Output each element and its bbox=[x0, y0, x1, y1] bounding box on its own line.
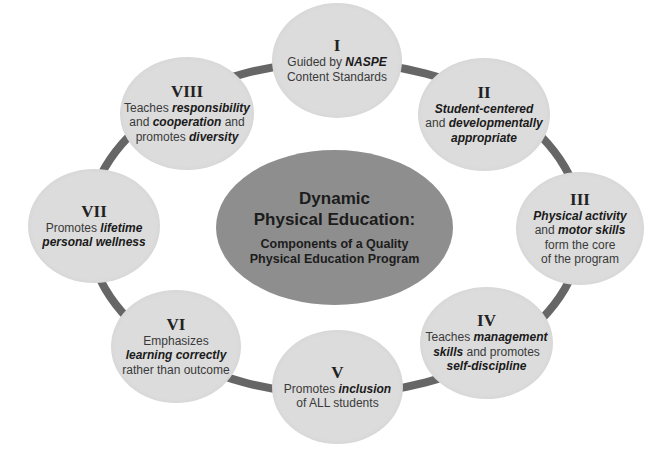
node-text-line: Emphasizes bbox=[143, 334, 208, 349]
emphasized-text: personal wellness bbox=[42, 235, 145, 249]
roman-numeral: I bbox=[334, 37, 341, 54]
text: promotes bbox=[136, 130, 189, 144]
node-text-line: and motor skills bbox=[535, 223, 626, 238]
text: and bbox=[221, 115, 244, 129]
emphasized-text: management bbox=[474, 330, 548, 344]
roman-numeral: III bbox=[570, 191, 590, 208]
component-node-1: IGuided by NASPEContent Standards bbox=[272, 3, 402, 118]
emphasized-text: learning correctly bbox=[126, 348, 227, 362]
emphasized-text: appropriate bbox=[451, 131, 517, 145]
emphasized-text: self-discipline bbox=[446, 359, 526, 373]
node-text-line: learning correctly bbox=[126, 348, 227, 363]
node-text-line: and developmentally bbox=[425, 116, 542, 131]
component-node-3: IIIPhysical activityand motor skillsform… bbox=[516, 172, 644, 285]
emphasized-text: motor skills bbox=[558, 223, 625, 237]
node-text-line: personal wellness bbox=[42, 235, 145, 250]
center-hub: Dynamic Physical Education: Components o… bbox=[216, 150, 453, 305]
node-text-line: self-discipline bbox=[446, 359, 526, 374]
node-text-line: Content Standards bbox=[287, 70, 387, 85]
roman-numeral: V bbox=[331, 364, 343, 381]
emphasized-text: NASPE bbox=[345, 55, 386, 69]
emphasized-text: inclusion bbox=[339, 382, 392, 396]
text: Teaches bbox=[124, 101, 172, 115]
node-text-line: of ALL students bbox=[296, 396, 378, 411]
component-node-4: IVTeaches managementskills and promotess… bbox=[420, 287, 553, 399]
emphasized-text: responsibility bbox=[172, 101, 250, 115]
emphasized-text: lifetime bbox=[100, 221, 142, 235]
text: rather than outcome bbox=[122, 363, 229, 377]
node-text-line: and cooperation and bbox=[129, 115, 244, 130]
node-text-line: promotes diversity bbox=[136, 130, 239, 145]
hub-subtitle-line-1: Components of a Quality bbox=[261, 237, 409, 252]
diagram-canvas: Dynamic Physical Education: Components o… bbox=[0, 0, 648, 460]
node-text-line: Physical activity bbox=[533, 209, 626, 224]
emphasized-text: Physical activity bbox=[533, 209, 626, 223]
text: form the core bbox=[545, 238, 616, 252]
node-text-line: Teaches responsibility bbox=[124, 101, 250, 116]
node-text-line: skills and promotes bbox=[433, 345, 540, 360]
text: Emphasizes bbox=[143, 334, 208, 348]
text: of the program bbox=[541, 252, 619, 266]
emphasized-text: diversity bbox=[189, 130, 238, 144]
component-node-8: VIIITeaches responsibilityand cooperatio… bbox=[120, 57, 254, 170]
roman-numeral: VII bbox=[81, 203, 107, 220]
hub-title-line-2: Physical Education: bbox=[254, 209, 416, 230]
node-text-line: Teaches management bbox=[425, 330, 547, 345]
node-text-line: Promotes inclusion bbox=[284, 382, 391, 397]
component-node-7: VIIPromotes lifetimepersonal wellness bbox=[28, 169, 160, 283]
node-text-line: Guided by NASPE bbox=[287, 55, 386, 70]
component-node-5: VPromotes inclusionof ALL students bbox=[272, 330, 403, 444]
roman-numeral: VIII bbox=[171, 83, 203, 100]
text: Content Standards bbox=[287, 70, 387, 84]
text: Teaches bbox=[425, 330, 473, 344]
text: and bbox=[425, 116, 448, 130]
roman-numeral: II bbox=[477, 84, 490, 101]
node-text-line: Promotes lifetime bbox=[46, 221, 143, 236]
text: Promotes bbox=[284, 382, 339, 396]
emphasized-text: developmentally bbox=[449, 116, 543, 130]
node-text-line: rather than outcome bbox=[122, 363, 229, 378]
emphasized-text: Student-centered bbox=[435, 102, 534, 116]
component-node-2: IIStudent-centeredand developmentallyapp… bbox=[418, 58, 550, 171]
hub-subtitle-line-2: Physical Education Program bbox=[250, 252, 420, 267]
text: of ALL students bbox=[296, 396, 378, 410]
component-node-6: VIEmphasizeslearning correctlyrather tha… bbox=[111, 290, 241, 403]
node-text-line: form the core bbox=[545, 238, 616, 253]
hub-title-line-1: Dynamic bbox=[299, 188, 370, 209]
emphasized-text: cooperation bbox=[153, 115, 222, 129]
text: Promotes bbox=[46, 221, 101, 235]
roman-numeral: IV bbox=[477, 312, 496, 329]
emphasized-text: skills bbox=[433, 345, 463, 359]
text: Guided by bbox=[287, 55, 345, 69]
text: and bbox=[129, 115, 152, 129]
node-text-line: appropriate bbox=[451, 131, 517, 146]
node-text-line: of the program bbox=[541, 252, 619, 267]
text: and bbox=[535, 223, 558, 237]
text: and promotes bbox=[463, 345, 540, 359]
roman-numeral: VI bbox=[167, 316, 186, 333]
node-text-line: Student-centered bbox=[435, 102, 534, 117]
